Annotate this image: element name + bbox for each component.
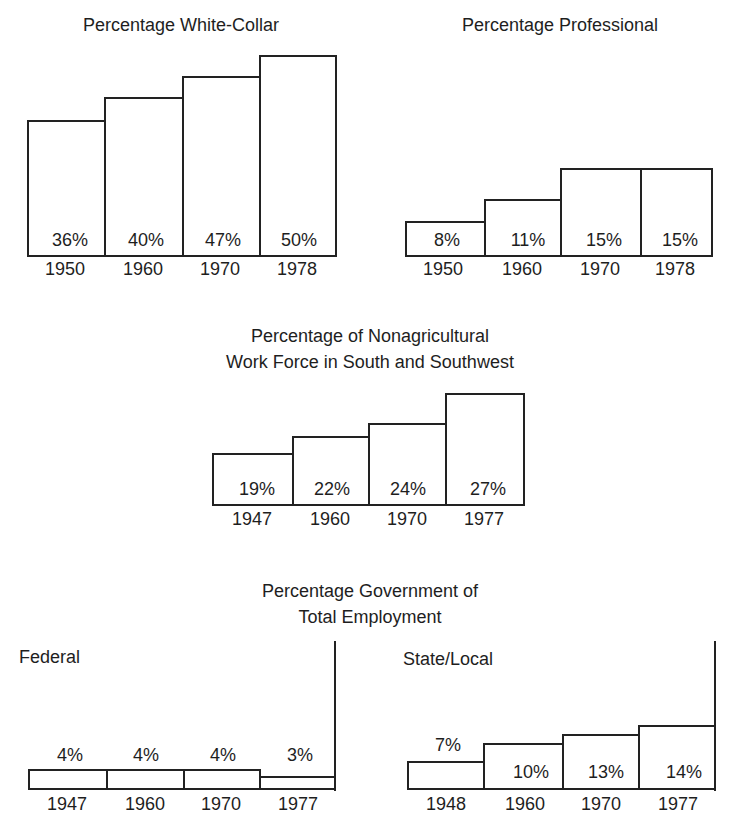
chart-subtitle: State/Local <box>403 649 493 670</box>
year-label: 1978 <box>640 259 710 280</box>
value-label: 7% <box>418 735 478 756</box>
chart-title: Percentage Professional <box>406 12 714 38</box>
year-label: 1950 <box>30 259 100 280</box>
value-label: 15% <box>650 230 710 251</box>
value-label: 4% <box>193 745 253 766</box>
value-label: 3% <box>270 745 330 766</box>
year-label: 1978 <box>262 259 332 280</box>
year-label: 1960 <box>487 259 557 280</box>
year-label: 1970 <box>565 259 635 280</box>
chart-title-line2: Work Force in South and Southwest <box>150 349 590 375</box>
chart-title-line1: Percentage of Nonagricultural <box>150 323 590 349</box>
value-label: 27% <box>458 479 518 500</box>
chart-title-line1: Percentage Government of <box>150 578 590 604</box>
value-label: 4% <box>40 745 100 766</box>
value-label: 11% <box>498 230 558 251</box>
value-label: 50% <box>269 230 329 251</box>
value-label: 19% <box>227 479 287 500</box>
value-label: 47% <box>193 230 253 251</box>
chart-subtitle: Federal <box>19 647 80 668</box>
year-label: 1977 <box>263 794 333 815</box>
year-label: 1947 <box>217 509 287 530</box>
value-label: 14% <box>654 762 714 783</box>
value-label: 40% <box>116 230 176 251</box>
value-label: 4% <box>116 745 176 766</box>
chart-title: Percentage White-Collar <box>27 12 335 38</box>
year-label: 1960 <box>490 794 560 815</box>
year-label: 1970 <box>372 509 442 530</box>
year-label: 1970 <box>566 794 636 815</box>
bar-1970 <box>183 769 261 790</box>
year-label: 1950 <box>408 259 478 280</box>
year-label: 1960 <box>108 259 178 280</box>
year-label: 1977 <box>449 509 519 530</box>
value-label: 13% <box>576 762 636 783</box>
year-label: 1948 <box>411 794 481 815</box>
year-label: 1947 <box>32 794 102 815</box>
chart-title-line2: Total Employment <box>150 604 590 630</box>
axis-line <box>334 641 336 791</box>
value-label: 36% <box>40 230 100 251</box>
year-label: 1960 <box>110 794 180 815</box>
bar-1978 <box>259 55 337 257</box>
value-label: 10% <box>501 762 561 783</box>
bar-1947 <box>28 769 108 790</box>
bar-1977 <box>259 776 336 790</box>
bar-1948 <box>407 761 485 790</box>
year-label: 1960 <box>295 509 365 530</box>
value-label: 22% <box>302 479 362 500</box>
bar-1960 <box>106 769 185 790</box>
year-label: 1970 <box>185 259 255 280</box>
value-label: 15% <box>574 230 634 251</box>
value-label: 24% <box>378 479 438 500</box>
year-label: 1970 <box>186 794 256 815</box>
year-label: 1977 <box>643 794 713 815</box>
value-label: 8% <box>417 230 477 251</box>
